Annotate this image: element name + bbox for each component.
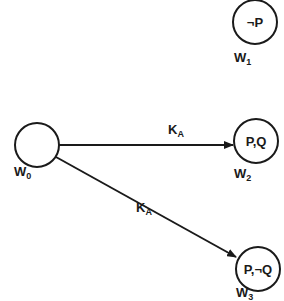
world-label: W1 [234, 50, 251, 67]
world-node-w1: ¬P W1 [233, 0, 277, 67]
world-circle [15, 123, 59, 167]
kripke-diagram: KA KA W0 ¬P W1 P,Q W2 P,¬Q W3 [0, 0, 284, 301]
world-content: ¬P [247, 15, 264, 30]
world-content: P,¬Q [244, 262, 272, 277]
world-label: W0 [14, 164, 31, 181]
edge-w0-w2: KA [59, 122, 233, 145]
world-label: W3 [236, 285, 253, 301]
world-node-w0: W0 [14, 123, 59, 181]
world-label: W2 [234, 166, 251, 183]
diagram-svg: KA KA W0 ¬P W1 P,Q W2 P,¬Q W3 [0, 0, 284, 301]
edge-w0-w3: KA [56, 157, 236, 257]
world-node-w2: P,Q W2 [234, 119, 278, 183]
world-node-w3: P,¬Q W3 [236, 247, 280, 301]
edge-label: KA [168, 122, 184, 139]
world-content: P,Q [246, 134, 267, 149]
edge-label: KA [136, 200, 152, 217]
